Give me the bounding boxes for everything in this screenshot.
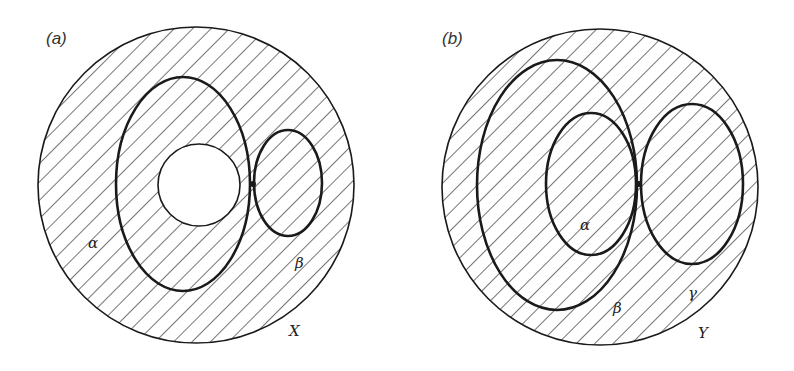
hatched-region-b [397, 0, 794, 371]
beta-label-a: β [294, 254, 304, 272]
gamma-label-b: γ [688, 284, 697, 302]
figure-canvas: (a) α β X (b) α β γ Y [0, 0, 794, 371]
panel-a: (a) α β X [0, 0, 397, 371]
tangent-point-b [636, 181, 642, 187]
inner-hole-circle [158, 144, 240, 226]
beta-label-b: β [612, 299, 622, 317]
x-label: X [288, 322, 301, 340]
panel-b: (b) α β γ Y [397, 0, 794, 371]
tangent-point-a [250, 181, 256, 187]
alpha-label-b: α [580, 216, 590, 234]
alpha-label-a: α [88, 234, 98, 252]
